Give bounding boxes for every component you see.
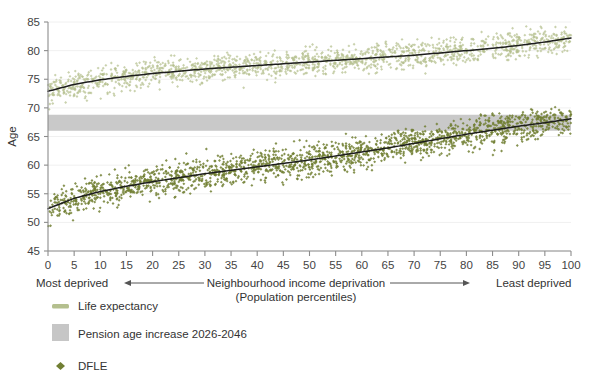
y-tick-label: 75 bbox=[27, 73, 40, 85]
y-tick-label: 85 bbox=[27, 16, 40, 28]
legend-item[interactable]: Pension age increase 2026-2046 bbox=[52, 324, 247, 341]
x-tick-label: 50 bbox=[303, 259, 316, 271]
x-tick-label: 25 bbox=[172, 259, 185, 271]
y-tick-label: 55 bbox=[27, 188, 40, 200]
x-axis-subtitle: (Population percentiles) bbox=[236, 291, 357, 303]
x-tick-label: 30 bbox=[199, 259, 212, 271]
y-axis-title: Age bbox=[6, 126, 18, 146]
y-tick-label: 65 bbox=[27, 131, 40, 143]
x-tick-label: 35 bbox=[225, 259, 238, 271]
legend: Life expectancyPension age increase 2026… bbox=[52, 300, 247, 372]
legend-line-swatch bbox=[52, 304, 69, 309]
y-tick-label: 50 bbox=[27, 216, 40, 228]
x-tick-label: 10 bbox=[94, 259, 107, 271]
x-axis-right-annotation: Least deprived bbox=[496, 277, 571, 289]
age-deprivation-scatter-chart: 4550556065707580850510152025303540455055… bbox=[0, 0, 592, 386]
x-tick-label: 0 bbox=[45, 259, 51, 271]
legend-item[interactable]: Life expectancy bbox=[52, 300, 158, 312]
legend-item[interactable]: DFLE bbox=[56, 360, 108, 372]
legend-diamond-icon bbox=[56, 362, 65, 370]
x-tick-label: 75 bbox=[434, 259, 447, 271]
x-tick-label: 90 bbox=[512, 259, 525, 271]
legend-item-label: DFLE bbox=[78, 360, 108, 372]
x-tick-label: 20 bbox=[146, 259, 159, 271]
x-axis-ticks: 0510152025303540455055606570758085909510… bbox=[45, 251, 581, 271]
legend-item-label: Life expectancy bbox=[78, 300, 158, 312]
x-tick-label: 55 bbox=[329, 259, 342, 271]
right-arrow-icon bbox=[463, 280, 470, 286]
x-axis-left-annotation: Most deprived bbox=[36, 277, 108, 289]
x-tick-label: 70 bbox=[408, 259, 421, 271]
y-tick-label: 80 bbox=[27, 45, 40, 57]
x-tick-label: 15 bbox=[120, 259, 133, 271]
x-tick-label: 80 bbox=[460, 259, 473, 271]
x-tick-label: 60 bbox=[355, 259, 368, 271]
x-tick-label: 40 bbox=[251, 259, 264, 271]
x-tick-label: 95 bbox=[538, 259, 551, 271]
y-axis-ticks: 455055606570758085 bbox=[27, 16, 48, 257]
x-tick-label: 65 bbox=[382, 259, 395, 271]
x-tick-label: 45 bbox=[277, 259, 290, 271]
y-tick-label: 70 bbox=[27, 102, 40, 114]
left-arrow-icon bbox=[124, 280, 131, 286]
x-tick-label: 100 bbox=[561, 259, 580, 271]
x-tick-label: 5 bbox=[71, 259, 77, 271]
x-axis-title: Neighbourhood income deprivation bbox=[207, 277, 385, 289]
x-tick-label: 85 bbox=[486, 259, 499, 271]
chart-figure: 4550556065707580850510152025303540455055… bbox=[0, 0, 592, 386]
legend-square-swatch bbox=[52, 324, 69, 341]
legend-item-label: Pension age increase 2026-2046 bbox=[78, 328, 247, 340]
y-tick-label: 45 bbox=[27, 245, 40, 257]
y-tick-label: 60 bbox=[27, 159, 40, 171]
